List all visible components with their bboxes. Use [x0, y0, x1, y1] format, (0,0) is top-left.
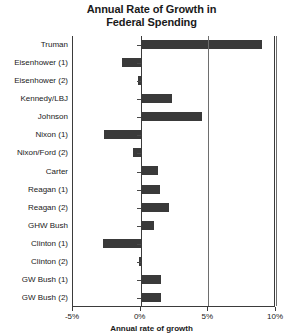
y-axis-tick	[137, 63, 141, 64]
y-axis-tick	[137, 117, 141, 118]
bar-row	[73, 289, 274, 307]
y-axis-label: Kennedy/LBJ	[0, 94, 68, 103]
bar-kennedy-lbj	[141, 94, 172, 103]
y-axis-label: GW Bush (2)	[0, 293, 68, 302]
bar-nixon-1	[104, 130, 141, 139]
x-axis-tick	[72, 307, 73, 311]
y-axis-tick	[137, 172, 141, 173]
y-axis-label: GHW Bush	[0, 221, 68, 230]
y-axis-tick	[137, 45, 141, 46]
bar-truman	[141, 40, 263, 49]
plot-area	[72, 36, 275, 307]
bar-row	[73, 108, 274, 126]
y-axis-label: Nixon (1)	[0, 130, 68, 139]
y-axis-tick	[137, 208, 141, 209]
x-axis-tick-label: 0%	[120, 312, 160, 322]
bar-reagan-2	[141, 203, 169, 212]
bar-row	[73, 144, 274, 162]
y-axis-tick	[137, 81, 141, 82]
y-axis-label: Clinton (2)	[0, 257, 68, 266]
bar-gw-bush-1	[141, 275, 161, 284]
y-axis-tick	[137, 99, 141, 100]
bar-row	[73, 217, 274, 235]
bar-row	[73, 181, 274, 199]
bar-gw-bush-2	[141, 293, 161, 302]
bar-row	[73, 90, 274, 108]
y-axis-label: Eisenhower (1)	[0, 58, 68, 67]
bar-row	[73, 54, 274, 72]
bar-row	[73, 36, 274, 54]
y-axis-label: Johnson	[0, 112, 68, 121]
bar-clinton-1	[103, 239, 141, 248]
y-axis-label: Nixon/Ford (2)	[0, 148, 68, 157]
y-axis-tick	[137, 153, 141, 154]
y-axis-tick	[137, 244, 141, 245]
y-axis-tick	[137, 226, 141, 227]
bar-johnson	[141, 112, 202, 121]
gridline-10pct	[276, 36, 277, 306]
zero-axis-line	[141, 36, 142, 306]
bar-ghw-bush	[141, 221, 155, 230]
bar-row	[73, 162, 274, 180]
y-axis-category-labels: TrumanEisenhower (1)Eisenhower (2)Kenned…	[0, 36, 68, 307]
bar-carter	[141, 166, 159, 175]
y-axis-label: Reagan (1)	[0, 185, 68, 194]
y-axis-label: Reagan (2)	[0, 203, 68, 212]
y-axis-label: GW Bush (1)	[0, 275, 68, 284]
y-axis-tick	[137, 190, 141, 191]
x-axis-title: Annual rate of growth	[0, 324, 303, 333]
y-axis-label: Eisenhower (2)	[0, 76, 68, 85]
y-axis-tick	[137, 280, 141, 281]
bar-row	[73, 271, 274, 289]
bar-row	[73, 126, 274, 144]
bar-row	[73, 235, 274, 253]
y-axis-label: Clinton (1)	[0, 239, 68, 248]
x-axis-tick-label: 5%	[187, 312, 227, 322]
bar-row	[73, 253, 274, 271]
y-axis-tick	[137, 298, 141, 299]
bar-row	[73, 72, 274, 90]
x-axis-tick	[275, 307, 276, 311]
chart-title-line2: Federal Spending	[0, 16, 303, 29]
y-axis-tick	[137, 135, 141, 136]
bar-rows	[73, 36, 274, 306]
x-axis-tick	[140, 307, 141, 311]
bar-reagan-1	[141, 185, 160, 194]
x-axis-tick-label: -5%	[52, 312, 92, 322]
chart-title: Annual Rate of Growth in Federal Spendin…	[0, 3, 303, 29]
y-axis-tick	[137, 262, 141, 263]
chart-title-line1: Annual Rate of Growth in	[87, 3, 217, 15]
x-axis-tick	[207, 307, 208, 311]
y-axis-label: Truman	[0, 40, 68, 49]
bar-row	[73, 199, 274, 217]
x-axis-tick-label: 10%	[255, 312, 295, 322]
gridline-5pct	[208, 36, 209, 306]
bar-chart: Annual Rate of Growth in Federal Spendin…	[0, 0, 303, 336]
y-axis-label: Carter	[0, 167, 68, 176]
